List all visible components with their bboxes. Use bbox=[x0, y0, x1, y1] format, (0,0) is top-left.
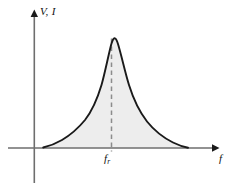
resonance-frequency-tick-label: fr bbox=[104, 152, 110, 166]
y-axis-arrowhead bbox=[31, 10, 38, 18]
curve-fill-area bbox=[43, 38, 188, 148]
y-axis-label: V, I bbox=[40, 5, 56, 17]
tick-label-subscript: r bbox=[107, 157, 110, 166]
x-axis-arrowhead bbox=[212, 144, 220, 151]
resonance-curve-figure: V, I f fr bbox=[0, 0, 237, 183]
x-axis-label: f bbox=[219, 152, 222, 164]
y-axis bbox=[31, 10, 38, 184]
plot-svg bbox=[0, 0, 237, 183]
